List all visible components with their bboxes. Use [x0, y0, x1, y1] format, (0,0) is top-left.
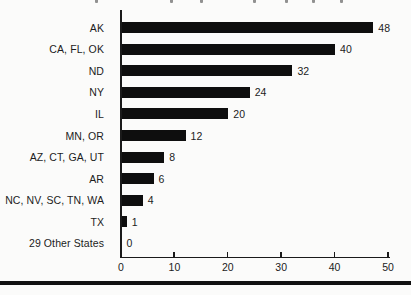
- x-axis-tick-label: 0: [109, 261, 133, 273]
- bar: [122, 22, 374, 33]
- page: AKCA, FL, OKNDNYILMN, ORAZ, CT, GA, UTAR…: [0, 0, 411, 295]
- bar-value-label: 12: [191, 130, 203, 142]
- chart-row: 40: [122, 39, 391, 61]
- chart-row: 32: [122, 60, 391, 82]
- bar: [122, 173, 154, 184]
- bar-chart: AKCA, FL, OKNDNYILMN, ORAZ, CT, GA, UTAR…: [0, 0, 411, 295]
- bar-value-label: 40: [340, 43, 352, 55]
- bar-value-label: 8: [169, 151, 175, 163]
- bar-value-label: 6: [159, 173, 165, 185]
- chart-row: 20: [122, 103, 391, 125]
- bar: [122, 152, 165, 163]
- category-label: TX: [0, 211, 112, 233]
- bar: [122, 108, 229, 119]
- x-axis-tick-labels: 01020304050: [120, 261, 390, 274]
- page-divider-rule: [0, 281, 411, 285]
- bar: [122, 65, 293, 76]
- chart-row: 0: [122, 232, 391, 254]
- x-axis-tick-label: 40: [323, 261, 347, 273]
- category-label: 29 Other States: [0, 232, 112, 254]
- x-axis-tick-label: 50: [376, 261, 400, 273]
- chart-row: 24: [122, 82, 391, 104]
- bar-value-label: 1: [132, 216, 138, 228]
- bar: [122, 216, 127, 227]
- bar-value-label: 48: [378, 22, 390, 34]
- category-label: AZ, CT, GA, UT: [0, 146, 112, 168]
- chart-row: 12: [122, 125, 391, 147]
- x-axis-line: [120, 257, 390, 259]
- x-axis-tick-label: 30: [269, 261, 293, 273]
- x-axis-tick-label: 20: [216, 261, 240, 273]
- bar-value-label: 20: [233, 108, 245, 120]
- chart-row: 48: [122, 17, 391, 39]
- chart-row: 1: [122, 211, 391, 233]
- category-label: MN, OR: [0, 125, 112, 147]
- bar-value-label: 0: [127, 237, 133, 249]
- bar: [122, 195, 143, 206]
- bar: [122, 44, 336, 55]
- category-label: NC, NV, SC, TN, WA: [0, 189, 112, 211]
- category-label: CA, FL, OK: [0, 39, 112, 61]
- category-label: AR: [0, 168, 112, 190]
- chart-row: 4: [122, 189, 391, 211]
- category-label: ND: [0, 60, 112, 82]
- plot-area: 48403224201286410: [120, 10, 390, 258]
- x-axis-tick-label: 10: [162, 261, 186, 273]
- bar: [122, 87, 250, 98]
- category-label: NY: [0, 82, 112, 104]
- bar-value-label: 24: [255, 86, 267, 98]
- bar-value-label: 4: [148, 194, 154, 206]
- bar-rows: 48403224201286410: [122, 17, 391, 254]
- category-label: AK: [0, 17, 112, 39]
- category-label: IL: [0, 103, 112, 125]
- category-labels: AKCA, FL, OKNDNYILMN, ORAZ, CT, GA, UTAR…: [0, 17, 112, 254]
- bar-value-label: 32: [297, 65, 309, 77]
- bar: [122, 130, 186, 141]
- chart-row: 8: [122, 146, 391, 168]
- chart-row: 6: [122, 168, 391, 190]
